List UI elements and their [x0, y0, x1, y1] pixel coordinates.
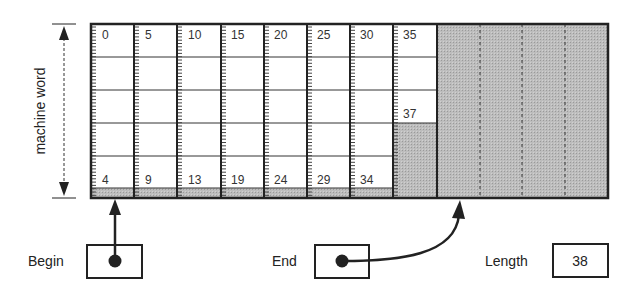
begin-label: Begin [28, 253, 64, 269]
arrow-up-icon [59, 26, 69, 40]
bit-label: 35 [403, 28, 417, 42]
bit-label: 29 [317, 173, 331, 187]
bit-label: 4 [102, 173, 109, 187]
length-value: 38 [572, 253, 588, 269]
arrow-up-icon [109, 199, 121, 215]
bit-label: 5 [145, 28, 152, 42]
bit-ticks [92, 27, 398, 195]
bit-label: 9 [145, 173, 152, 187]
bit-label: 24 [274, 173, 288, 187]
bit-label: 10 [188, 28, 202, 42]
bit-label: 30 [360, 28, 374, 42]
bit-label: 13 [188, 173, 202, 187]
bit-label: 37 [403, 107, 417, 121]
length-label: Length [485, 253, 528, 269]
bitvector-diagram: machine word 0 5 10 15 [0, 0, 643, 291]
bit-label: 0 [102, 28, 109, 42]
bit-index-labels: 0 5 10 15 20 25 30 35 4 9 13 19 24 29 34… [102, 28, 417, 187]
bit-label: 25 [317, 28, 331, 42]
end-pointer: End [272, 200, 465, 278]
bit-label: 19 [231, 173, 245, 187]
bit-label: 20 [274, 28, 288, 42]
begin-pointer: Begin [28, 199, 142, 278]
bit-label: 15 [231, 28, 245, 42]
end-label: End [272, 253, 297, 269]
arrow-down-icon [59, 182, 69, 196]
bit-label: 34 [360, 173, 374, 187]
machine-word-dimension: machine word [32, 24, 76, 198]
arrow-up-icon [452, 200, 465, 219]
length-field: Length 38 [485, 244, 608, 277]
machine-word-label: machine word [32, 67, 48, 154]
